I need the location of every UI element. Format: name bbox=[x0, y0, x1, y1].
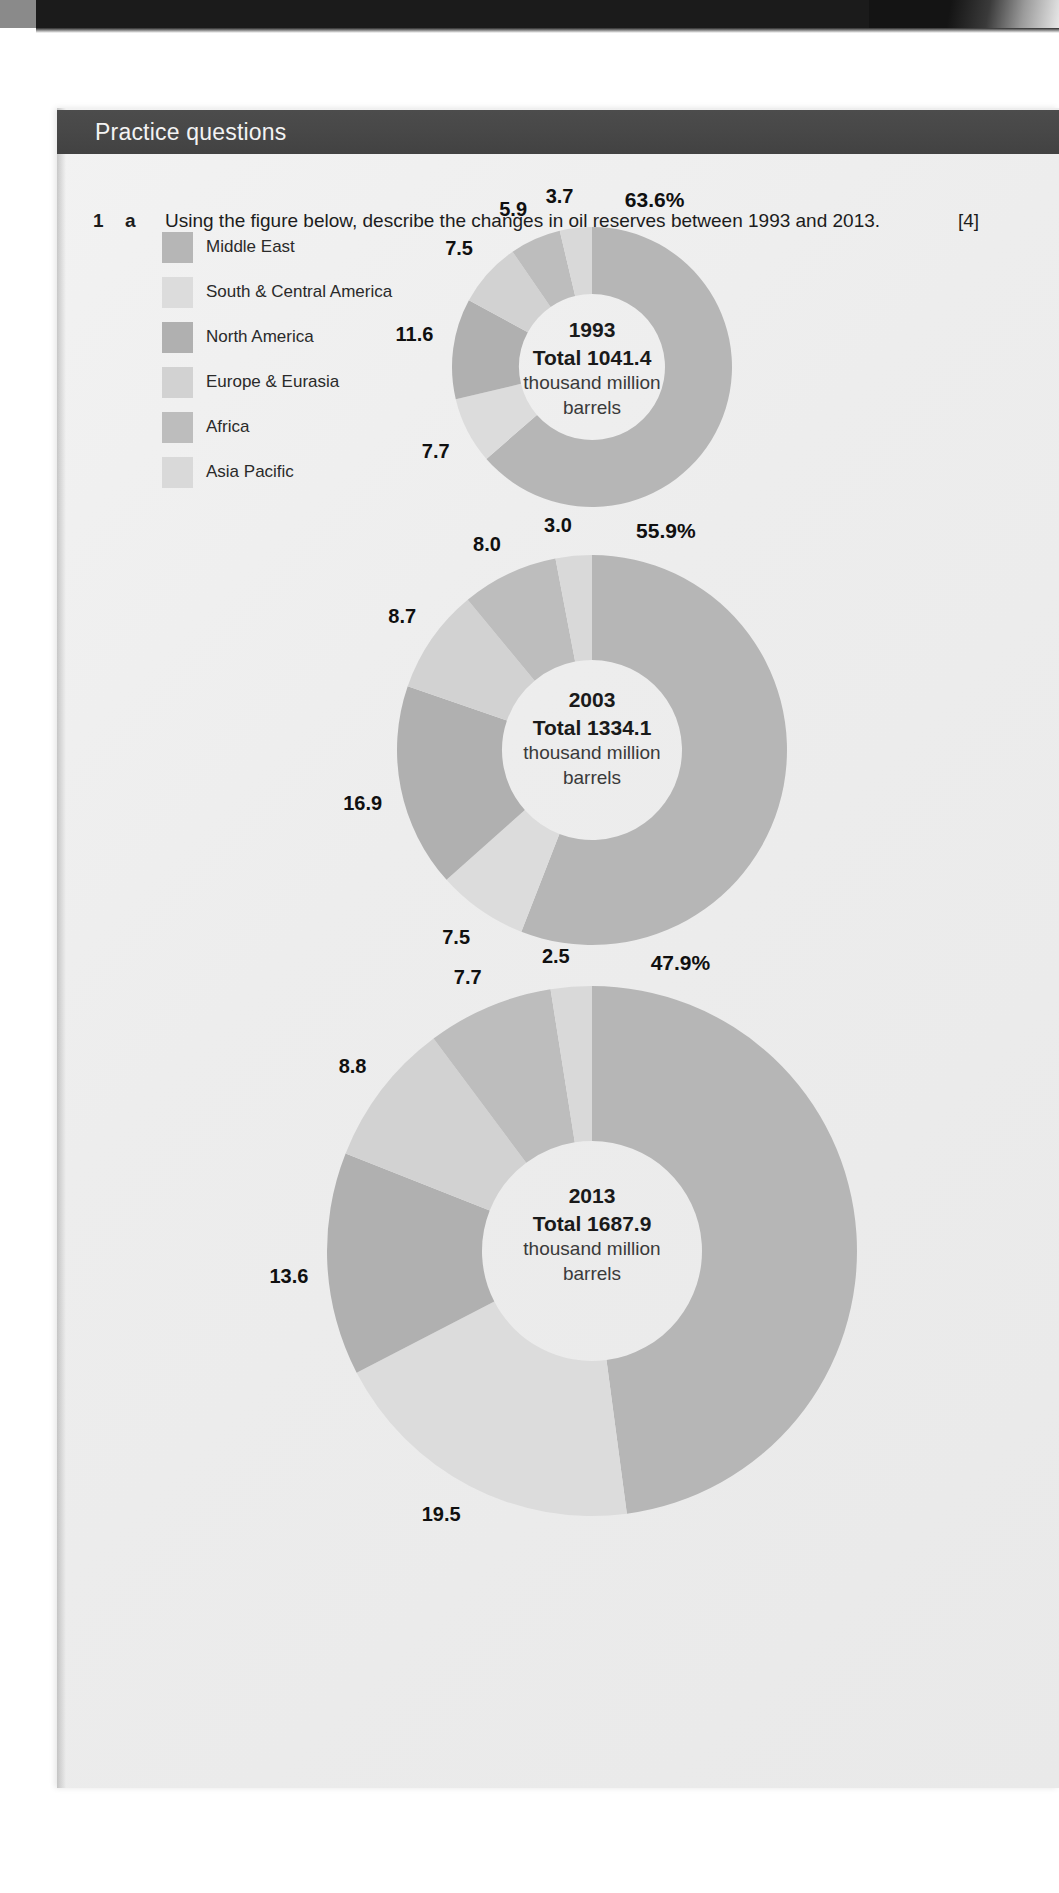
donut-slice-label: 63.6% bbox=[625, 188, 685, 212]
donut-slice-label: 16.9 bbox=[343, 792, 382, 815]
donut-slice-label: 7.7 bbox=[422, 440, 450, 463]
chart-legend: Middle EastSouth & Central AmericaNorth … bbox=[162, 232, 422, 502]
legend-swatch-icon bbox=[162, 367, 193, 398]
question-subpart: a bbox=[125, 210, 136, 232]
legend-swatch-icon bbox=[162, 457, 193, 488]
donut-slice-label: 7.5 bbox=[442, 926, 470, 949]
legend-item-label: Africa bbox=[206, 417, 249, 437]
legend-swatch-icon bbox=[162, 412, 193, 443]
donut-slice-label: 2.5 bbox=[542, 945, 570, 968]
donut-slice-label: 7.7 bbox=[454, 966, 482, 989]
legend-item-label: South & Central America bbox=[206, 282, 392, 302]
donut-slice-label: 7.5 bbox=[445, 237, 473, 260]
scan-strip-shadow bbox=[36, 28, 1059, 33]
legend-item: North America bbox=[162, 322, 422, 367]
donut-svg bbox=[325, 984, 859, 1518]
question-marks: [4] bbox=[958, 210, 979, 232]
legend-item: Europe & Eurasia bbox=[162, 367, 422, 412]
donut-slice bbox=[592, 986, 857, 1514]
donut-slice-label: 19.5 bbox=[422, 1503, 461, 1526]
donut-slice-label: 3.0 bbox=[544, 514, 572, 537]
legend-item: Asia Pacific bbox=[162, 457, 422, 502]
legend-swatch-icon bbox=[162, 232, 193, 263]
donut-svg bbox=[450, 225, 734, 509]
donut-chart-2013 bbox=[325, 984, 859, 1518]
legend-item-label: Asia Pacific bbox=[206, 462, 294, 482]
question-number: 1 bbox=[93, 210, 104, 232]
donut-slice-label: 5.9 bbox=[499, 198, 527, 221]
legend-item-label: North America bbox=[206, 327, 314, 347]
donut-chart-2003 bbox=[395, 553, 789, 947]
donut-slice-label: 3.7 bbox=[546, 185, 574, 208]
donut-svg bbox=[395, 553, 789, 947]
legend-swatch-icon bbox=[162, 322, 193, 353]
donut-slice-label: 13.6 bbox=[269, 1265, 308, 1288]
legend-item-label: Europe & Eurasia bbox=[206, 372, 339, 392]
legend-swatch-icon bbox=[162, 277, 193, 308]
donut-slice-label: 8.0 bbox=[473, 533, 501, 556]
page-title: Practice questions bbox=[95, 119, 287, 146]
donut-slice-label: 8.8 bbox=[339, 1055, 367, 1078]
legend-item-label: Middle East bbox=[206, 237, 295, 257]
donut-slice-label: 8.7 bbox=[388, 605, 416, 628]
donut-chart-1993 bbox=[450, 225, 734, 509]
donut-slice-label: 47.9% bbox=[651, 951, 711, 975]
legend-item: Africa bbox=[162, 412, 422, 457]
donut-slice-label: 55.9% bbox=[636, 519, 696, 543]
legend-item: South & Central America bbox=[162, 277, 422, 322]
donut-slice-label: 11.6 bbox=[396, 323, 434, 346]
legend-item: Middle East bbox=[162, 232, 422, 277]
scan-edge-left bbox=[0, 0, 36, 28]
